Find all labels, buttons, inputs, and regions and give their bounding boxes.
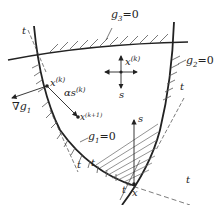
label-s-corner: s	[138, 113, 143, 124]
label-grad-g1: ∇g1	[12, 100, 31, 115]
feasible-direction-diagram: g3=0 g1=0 g2=0	[0, 0, 214, 205]
diagram-canvas: g3=0 g1=0 g2=0	[0, 0, 214, 205]
label-t-2: t	[180, 81, 185, 92]
label-xk1: x(k+1)	[80, 111, 103, 122]
label-t-5: t	[186, 174, 191, 185]
gradient-g1-arrow	[12, 86, 47, 98]
label-g1: g1=0	[88, 130, 116, 145]
label-s-interior: s	[119, 89, 124, 100]
tangent-lines	[28, 30, 190, 205]
label-x-interior: x(k)	[125, 55, 141, 67]
label-t-1: t	[22, 25, 27, 36]
label-g3: g3=0	[111, 8, 139, 23]
label-x-corner: x	[132, 187, 138, 198]
label-t-6: t	[122, 184, 127, 195]
label-step: αs(k)	[64, 86, 86, 98]
constraint-g1-curve	[32, 26, 135, 186]
label-t-3: t	[77, 159, 82, 170]
label-g2: g2=0	[186, 54, 214, 69]
